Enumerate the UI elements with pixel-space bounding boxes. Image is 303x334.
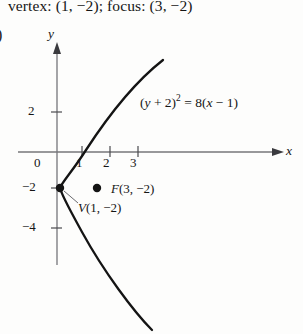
focus-label-letter: F — [111, 181, 119, 196]
vertex-label-coords: (1, −2) — [86, 200, 122, 215]
y-tick-label-minus2: −2 — [22, 179, 36, 195]
x-tick-label-1: 1 — [76, 155, 83, 171]
eqn-plus: + 2) — [151, 95, 177, 110]
focus-label: F(3, −2) — [111, 181, 154, 197]
eqn-close: − 1) — [212, 95, 238, 110]
figure-page: vertex: (1, −2); focus: (3, −2) ) — [0, 0, 303, 334]
vertex-label: V(1, −2) — [78, 200, 121, 216]
y-axis — [53, 42, 61, 265]
focus-label-coords: (3, −2) — [119, 181, 155, 196]
focus-point — [93, 184, 101, 192]
x-axis-label: x — [286, 143, 292, 159]
eqn-equals: = 8( — [181, 95, 207, 110]
y-axis-label: y — [48, 26, 54, 42]
vertex-label-letter: V — [78, 200, 86, 215]
x-axis — [18, 148, 284, 156]
parabola-graph — [0, 0, 303, 334]
y-tick-label-2: 2 — [28, 103, 35, 119]
x-tick-label-2: 2 — [103, 155, 110, 171]
x-tick-label-3: 3 — [130, 155, 137, 171]
y-tick-label-minus4: −4 — [22, 219, 36, 235]
x-tick-label-0: 0 — [34, 155, 41, 171]
curve-equation-label: (y + 2)2 = 8(x − 1) — [140, 93, 238, 111]
vertex-point — [56, 184, 64, 192]
